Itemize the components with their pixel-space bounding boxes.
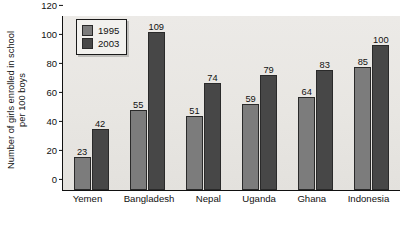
bar-group-ghana: 6483: [298, 16, 333, 190]
bar-indonesia-1995: 85: [354, 67, 371, 190]
bar-value-label: 74: [207, 73, 217, 83]
chart-screenshot: Number of girls enrolled in school per 1…: [0, 0, 407, 230]
bar-value-label: 55: [133, 100, 143, 110]
bar-uganda-2003: 79: [260, 75, 277, 190]
bar-group-indonesia: 85100: [354, 16, 389, 190]
bar-indonesia-2003: 100: [372, 45, 389, 190]
y-axis-tick-60: 60: [46, 87, 63, 98]
x-axis-label-yemen: Yemen: [73, 193, 103, 204]
bar-ghana-2003: 83: [316, 70, 333, 190]
y-axis-tick-120: 120: [41, 0, 63, 11]
bar-bangladesh-1995: 55: [130, 110, 147, 190]
bar-value-label: 83: [320, 60, 330, 70]
bar-value-label: 59: [245, 94, 255, 104]
y-axis-tick-80: 80: [46, 58, 63, 69]
y-axis-tick-0: 0: [52, 174, 63, 185]
legend-item-1995: 1995: [82, 24, 119, 37]
bar-nepal-1995: 51: [186, 116, 203, 190]
bar-value-label: 109: [148, 22, 164, 32]
bar-uganda-1995: 59: [242, 104, 259, 190]
x-axis-label-uganda: Uganda: [242, 193, 276, 204]
bar-yemen-2003: 42: [92, 129, 109, 190]
bar-group-uganda: 5979: [242, 16, 277, 190]
legend-item-2003: 2003: [82, 37, 119, 50]
legend-swatch-2003-icon: [82, 38, 93, 49]
legend-swatch-1995-icon: [82, 25, 93, 36]
chart-legend: 1995 2003: [76, 19, 127, 55]
bar-value-label: 100: [373, 35, 389, 45]
bar-group-bangladesh: 55109: [130, 16, 165, 190]
bar-value-label: 64: [302, 87, 312, 97]
y-axis-tick-20: 20: [46, 145, 63, 156]
x-axis-category-labels: YemenBangladeshNepalUgandaGhanaIndonesia: [62, 193, 400, 209]
bar-value-label: 85: [358, 57, 368, 67]
x-axis-label-ghana: Ghana: [297, 193, 326, 204]
y-axis-title: Number of girls enrolled in school per 1…: [0, 0, 34, 200]
x-axis-label-indonesia: Indonesia: [348, 193, 390, 204]
y-axis-title-line1: Number of girls enrolled in school: [6, 31, 16, 169]
bar-yemen-1995: 23: [74, 157, 91, 190]
x-axis-label-bangladesh: Bangladesh: [124, 193, 175, 204]
bar-group-nepal: 5174: [186, 16, 221, 190]
y-axis-tick-100: 100: [41, 29, 63, 40]
bar-nepal-2003: 74: [204, 83, 221, 190]
legend-label-1995: 1995: [98, 25, 119, 36]
y-axis-title-line2: per 100 boys: [17, 31, 28, 169]
bar-ghana-1995: 64: [298, 97, 315, 190]
bar-bangladesh-2003: 109: [148, 32, 165, 190]
bar-value-label: 42: [95, 119, 105, 129]
legend-label-2003: 2003: [98, 38, 119, 49]
x-axis-label-nepal: Nepal: [196, 193, 221, 204]
bar-value-label: 23: [77, 147, 87, 157]
bar-value-label: 51: [189, 106, 199, 116]
y-axis-tick-40: 40: [46, 116, 63, 127]
bar-value-label: 79: [263, 65, 273, 75]
